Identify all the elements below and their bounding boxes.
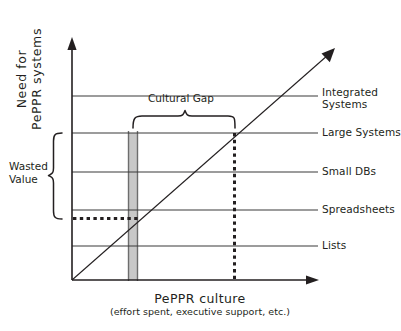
x-axis-title-subtitle: (effort spent, executive support, etc.) — [0, 307, 400, 318]
tier-label-integrated-systems-line1: Integrated — [322, 86, 378, 98]
y-axis-title-line1: Need for — [14, 4, 29, 154]
tier-label-spreadsheets: Spreadsheets — [322, 204, 395, 216]
tier-label-small-dbs: Small DBs — [322, 166, 376, 178]
tier-label-large-systems: Large Systems — [322, 127, 401, 139]
wasted-value-label-line1: Wasted — [9, 160, 48, 172]
trend-line-arrowhead — [322, 48, 336, 62]
x-axis-title-main: PePPR culture — [0, 292, 400, 306]
cultural-gap-label: Cultural Gap — [148, 93, 214, 105]
current-culture-band — [128, 133, 138, 280]
wasted-value-label-line2: Value — [9, 173, 38, 185]
cultural-gap-brace — [133, 111, 235, 129]
x-axis-title: PePPR culture (effort spent, executive s… — [0, 292, 400, 318]
tier-label-integrated-systems-line2: Systems — [322, 98, 367, 110]
tier-label-lists: Lists — [322, 240, 346, 252]
x-axis-arrowhead — [306, 275, 319, 284]
y-axis-arrowhead — [67, 37, 76, 50]
tier-label-integrated-systems: Integrated Systems — [322, 86, 388, 111]
wasted-value-label: Wasted Value — [9, 160, 53, 185]
y-axis-title-line2: PePPR systems — [29, 4, 44, 154]
y-axis-title: Need for PePPR systems — [14, 4, 48, 154]
